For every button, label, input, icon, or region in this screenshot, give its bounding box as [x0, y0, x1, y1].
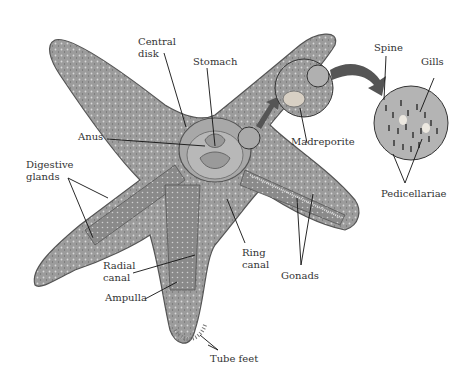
label-stomach: Stomach	[193, 56, 237, 68]
label-digestive-glands: Digestive glands	[26, 159, 73, 183]
sea-star-anatomy-diagram: Central disk Stomach Anus Digestive glan…	[0, 0, 460, 384]
label-central-disk: Central disk	[138, 36, 176, 60]
madreporite-spot	[238, 127, 260, 149]
label-radial-canal: Radial canal	[103, 260, 135, 284]
zoom-arrow-2	[330, 64, 386, 96]
label-gills: Gills	[421, 56, 444, 68]
label-tube-feet: Tube feet	[210, 353, 258, 365]
label-madreporite: Madreporite	[291, 136, 355, 148]
label-pedicellariae: Pedicellariae	[381, 188, 447, 200]
skin-magnified-circle	[374, 86, 448, 160]
madreporite-magnified-circle	[275, 59, 333, 117]
label-anus: Anus	[78, 131, 103, 143]
central-disk	[179, 118, 251, 182]
label-gonads: Gonads	[281, 270, 319, 282]
label-ampulla: Ampulla	[105, 292, 147, 304]
label-ring-canal: Ring canal	[242, 247, 269, 271]
label-spine: Spine	[374, 42, 403, 54]
